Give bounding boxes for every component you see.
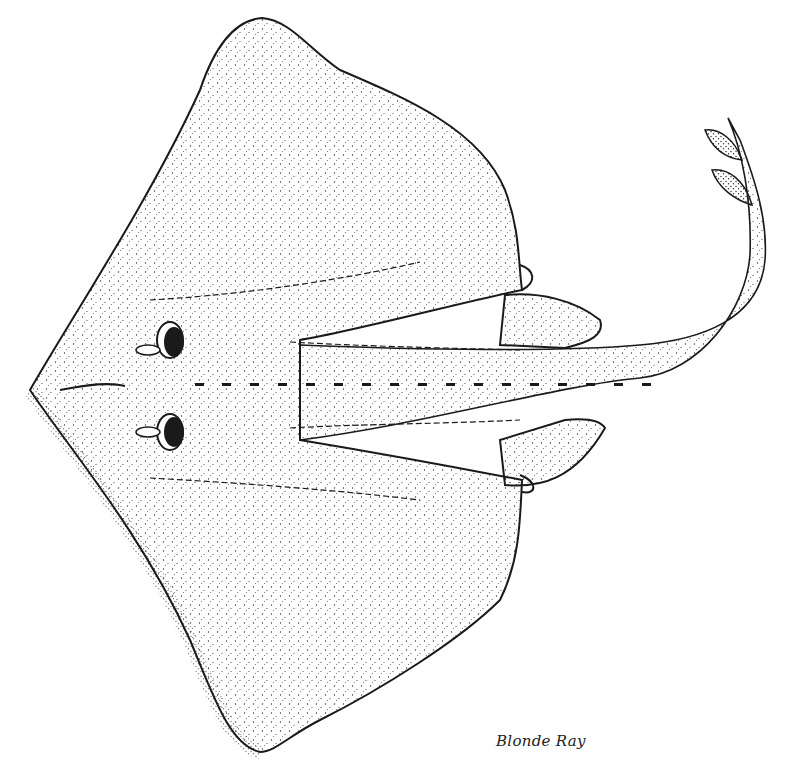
blonde-ray-illustration <box>0 0 797 783</box>
figure-caption: Blonde Ray <box>496 732 586 750</box>
